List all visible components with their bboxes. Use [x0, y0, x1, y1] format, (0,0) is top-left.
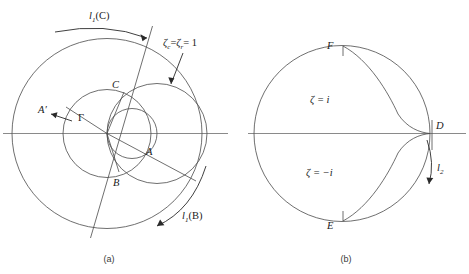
ray-A-prime-a [66, 107, 107, 134]
line-l1-a [91, 26, 153, 238]
label-zeta-minus-i: ζ = −i [306, 167, 333, 179]
caption-panel-b: (b) [341, 254, 352, 264]
label-zeta-plus-i: ζ = i [310, 94, 330, 106]
arrowhead-zeta-condition-a [168, 77, 174, 84]
label-point-A: A [145, 146, 153, 157]
label-point-C: C [112, 79, 120, 90]
label-gamma: Γ [78, 112, 84, 123]
arc-l1-C-a [55, 28, 147, 38]
label-zeta-condition: ζc=ζr= 1 [163, 37, 197, 51]
panel-b: F E D ζ = i ζ = −i l2 (b) [248, 40, 466, 264]
label-locus-l1-B: l1(B) [182, 210, 203, 224]
ray-C-a [107, 92, 124, 134]
panel-a: l1(C) l1(B) ζc=ζr= 1 C A′ Γ A B (a) [3, 10, 228, 264]
arrowhead-A-prime-a [51, 112, 58, 118]
label-point-B: B [113, 177, 120, 188]
label-point-A-prime: A′ [37, 104, 47, 115]
figure-container: l1(C) l1(B) ζc=ζr= 1 C A′ Γ A B (a) [0, 0, 469, 274]
arc-zeta-minus-i-b [343, 134, 430, 222]
caption-panel-a: (a) [104, 254, 115, 264]
arc-zeta-plus-i-b [343, 46, 430, 134]
arrowhead-l1-C-a [141, 34, 148, 41]
label-locus-l1-C: l1(C) [89, 10, 110, 24]
label-point-E: E [326, 220, 334, 231]
arrowhead-l2-b [426, 178, 433, 185]
label-point-D: D [435, 120, 444, 131]
ray-A-a [107, 134, 196, 182]
arc-l2-b [427, 140, 432, 184]
figure-svg: l1(C) l1(B) ζc=ζr= 1 C A′ Γ A B (a) [0, 0, 469, 274]
label-locus-l2: l2 [437, 162, 444, 176]
label-point-F: F [326, 40, 334, 51]
